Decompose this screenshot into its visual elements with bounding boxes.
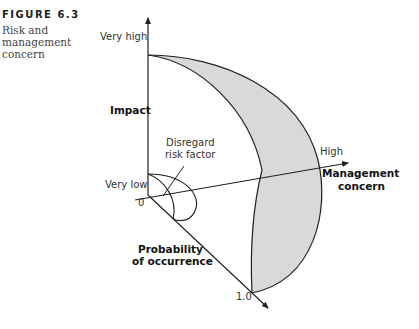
high-label: High <box>320 146 343 157</box>
probability-label-line1: Probability <box>138 243 203 255</box>
very-high-label: Very high <box>100 31 147 42</box>
management-label-line1: Management <box>322 167 399 179</box>
origin-label: 0 <box>138 197 144 208</box>
probability-label-line2: of occurrence <box>132 255 213 267</box>
annotation-line2: risk factor <box>165 149 216 160</box>
disregard-region-outline <box>148 174 197 221</box>
risk-diagram: Very high Impact Very low 0 Disregard ri… <box>0 0 419 329</box>
probability-max-label: 1.0 <box>236 291 252 302</box>
impact-label: Impact <box>110 104 151 116</box>
very-low-label: Very low <box>105 179 148 190</box>
annotation-line1: Disregard <box>166 137 215 148</box>
management-label-line2: concern <box>338 180 385 192</box>
